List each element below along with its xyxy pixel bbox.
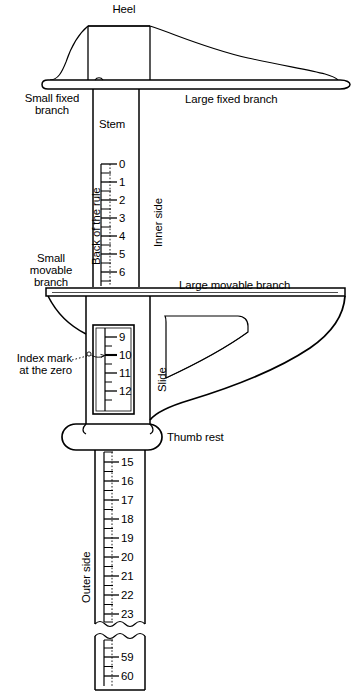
upper-scale-minor-ticks [101, 173, 111, 281]
heel-block-group [88, 26, 150, 80]
upper-scale-number: 0 [119, 158, 125, 170]
bottom-fragment-number: 59 [121, 651, 133, 663]
upper-scale-number: 4 [119, 230, 125, 242]
slide-scale-number: 10 [119, 349, 131, 361]
upper-scale-number: 6 [119, 266, 125, 278]
stem-break-lower-edge [95, 634, 145, 639]
upper-scale-number: 2 [119, 194, 125, 206]
upper-scale-major-ticks [101, 164, 117, 272]
label-outer-side: Outer side [80, 551, 92, 603]
label-index-mark: Index mark at the zero [0, 352, 72, 376]
shoe-profile-path [50, 26, 150, 80]
upper-scale-number: 3 [119, 212, 125, 224]
shoe-outline-group [50, 26, 338, 80]
label-small-movable-branch: Small movable branch [13, 252, 89, 288]
label-inner-side: Inner side [152, 198, 164, 247]
lower-scale-number: 18 [121, 513, 133, 525]
label-large-fixed-branch: Large fixed branch [185, 93, 278, 105]
lower-scale-number: 17 [121, 494, 133, 506]
bottom-fragment-group [95, 636, 145, 690]
index-mark-leader-dotted [72, 356, 87, 360]
gusset-outer-curve [150, 296, 345, 420]
shoe-toe-profile-path [150, 26, 338, 80]
lower-scale-major-ticks [104, 462, 119, 614]
gusset-inner-hairline [166, 332, 248, 378]
lower-scale-number: 20 [121, 551, 133, 563]
bottom-fragment-number: 60 [121, 670, 133, 682]
large-movable-branch-gusset [150, 296, 345, 420]
label-thumb-rest: Thumb rest [167, 431, 224, 443]
bottom-fragment-scale-group [104, 640, 119, 686]
label-stem: Stem [99, 118, 125, 130]
lower-scale-number: 21 [121, 570, 133, 582]
lower-scale-number: 23 [121, 608, 133, 620]
thumb-rest-shape [62, 424, 162, 450]
fixed-branch-bar [42, 80, 350, 89]
gusset-inner-window [165, 316, 248, 378]
lower-scale-group [104, 452, 119, 622]
lower-scale-number: 19 [121, 532, 133, 544]
label-back-of-the-rule: Back of the rule [90, 187, 102, 265]
caliper-diagram-figure: 0 1 2 3 4 5 6 9 10 11 12 15 16 17 18 19 … [0, 0, 355, 695]
lower-scale-number: 15 [121, 456, 133, 468]
small-movable-branch-jaw [48, 296, 86, 334]
label-heel: Heel [93, 3, 155, 15]
label-small-fixed-branch: Small fixed branch [12, 92, 92, 116]
slide-scale-number: 12 [119, 385, 131, 397]
upper-scale-group [101, 164, 117, 286]
lower-stem-group [95, 450, 145, 624]
slide-scale-number: 11 [119, 367, 131, 379]
label-slide: Slide [156, 367, 168, 392]
slide-scale-number: 9 [119, 331, 125, 343]
lower-scale-number: 16 [121, 475, 133, 487]
stem-break-upper-edge [95, 622, 145, 627]
fixed-branch-group [42, 80, 350, 89]
upper-scale-number: 1 [119, 176, 125, 188]
label-large-movable-branch: Large movable branch [179, 279, 290, 291]
upper-scale-number: 5 [119, 248, 125, 260]
index-mark-leader-dot [87, 352, 91, 356]
lower-scale-number: 22 [121, 589, 133, 601]
